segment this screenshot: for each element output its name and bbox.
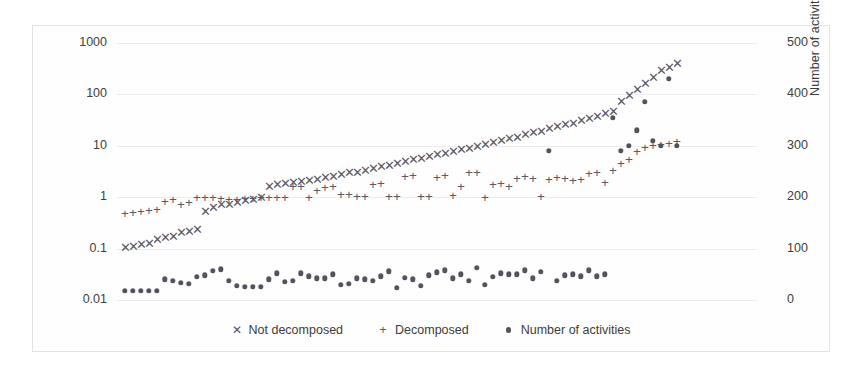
data-point-plus: +	[145, 204, 153, 218]
data-point-cross: ✕	[472, 141, 483, 154]
y-axis-tick-label: 100	[45, 86, 107, 100]
data-point-dot	[514, 272, 519, 277]
data-point-plus: +	[169, 193, 177, 207]
data-point-dot	[434, 269, 439, 274]
data-point-cross: ✕	[272, 179, 283, 192]
data-point-plus: +	[593, 167, 601, 181]
data-point-dot	[130, 288, 135, 293]
data-point-cross: ✕	[304, 174, 315, 187]
data-point-cross: ✕	[280, 178, 291, 191]
data-point-plus: +	[369, 179, 377, 193]
data-point-plus: +	[129, 206, 137, 220]
data-point-plus: +	[153, 203, 161, 217]
data-point-dot	[298, 271, 303, 276]
data-point-cross: ✕	[128, 240, 139, 253]
data-point-plus: +	[601, 176, 609, 190]
data-point-dot	[138, 288, 143, 293]
data-point-dot	[314, 276, 319, 281]
data-point-cross: ✕	[504, 133, 515, 146]
data-point-plus: +	[473, 166, 481, 180]
data-point-plus: +	[257, 192, 265, 206]
data-point-cross: ✕	[408, 154, 419, 167]
data-point-cross: ✕	[248, 194, 259, 207]
data-point-plus: +	[585, 167, 593, 181]
data-point-cross: ✕	[176, 227, 187, 240]
data-point-dot	[554, 278, 559, 283]
y-axis-tick-label: 0.01	[45, 292, 107, 306]
data-point-cross: ✕	[264, 180, 275, 193]
gridline	[117, 43, 757, 44]
gridline	[117, 197, 757, 198]
data-point-cross: ✕	[296, 175, 307, 188]
data-point-cross: ✕	[384, 159, 395, 172]
data-point-cross: ✕	[608, 105, 619, 118]
data-point-cross: ✕	[440, 148, 451, 161]
data-point-plus: +	[545, 173, 553, 187]
data-point-dot	[618, 148, 623, 153]
data-point-cross: ✕	[576, 115, 587, 128]
data-point-dot	[578, 274, 583, 279]
data-point-cross: ✕	[328, 170, 339, 183]
legend-item[interactable]: ✕Not decomposed	[231, 323, 344, 337]
legend-item[interactable]: Number of activities	[503, 323, 631, 337]
data-point-dot	[666, 76, 671, 81]
data-point-dot	[170, 278, 175, 283]
data-point-cross: ✕	[288, 177, 299, 190]
gridline	[117, 94, 757, 95]
y2-axis-tick-label: 100	[787, 241, 808, 255]
data-point-cross: ✕	[232, 196, 243, 209]
data-point-dot	[490, 274, 495, 279]
data-point-plus: +	[321, 181, 329, 195]
data-point-cross: ✕	[416, 152, 427, 165]
data-point-dot	[306, 274, 311, 279]
data-point-plus: +	[617, 157, 625, 171]
data-point-plus: +	[177, 198, 185, 212]
data-point-dot	[210, 268, 215, 273]
data-point-dot	[146, 288, 151, 293]
y-axis-tick-label: 0.1	[45, 241, 107, 255]
data-point-plus: +	[569, 174, 577, 188]
data-point-dot	[162, 277, 167, 282]
data-point-plus: +	[265, 192, 273, 206]
data-point-plus: +	[457, 180, 465, 194]
data-point-cross: ✕	[488, 136, 499, 149]
data-point-cross: ✕	[672, 58, 683, 71]
data-point-cross: ✕	[152, 233, 163, 246]
plus-marker-icon: +	[377, 324, 389, 336]
data-point-plus: +	[497, 177, 505, 191]
legend-label: Not decomposed	[249, 323, 344, 337]
data-point-plus: +	[377, 177, 385, 191]
data-point-cross: ✕	[512, 131, 523, 144]
data-point-dot	[642, 99, 647, 104]
data-point-plus: +	[657, 138, 665, 152]
plot-area: ✕✕✕✕✕✕✕✕✕✕✕✕✕✕✕✕✕✕✕✕✕✕✕✕✕✕✕✕✕✕✕✕✕✕✕✕✕✕✕✕…	[117, 43, 757, 300]
data-point-cross: ✕	[360, 164, 371, 177]
data-point-dot	[530, 276, 535, 281]
legend-item[interactable]: +Decomposed	[377, 323, 469, 337]
data-point-plus: +	[633, 145, 641, 159]
data-point-cross: ✕	[320, 171, 331, 184]
data-point-cross: ✕	[448, 146, 459, 159]
data-point-cross: ✕	[256, 192, 267, 205]
data-point-dot	[226, 278, 231, 283]
data-point-plus: +	[577, 173, 585, 187]
data-point-dot	[610, 115, 615, 120]
data-point-plus: +	[433, 171, 441, 185]
data-point-plus: +	[441, 169, 449, 183]
data-point-cross: ✕	[656, 65, 667, 78]
data-point-cross: ✕	[392, 158, 403, 171]
data-point-cross: ✕	[648, 72, 659, 85]
data-point-dot	[186, 281, 191, 286]
data-point-dot	[594, 274, 599, 279]
data-point-plus: +	[481, 192, 489, 206]
data-point-cross: ✕	[400, 156, 411, 169]
gridline	[117, 249, 757, 250]
data-point-plus: +	[449, 189, 457, 203]
data-point-dot	[586, 267, 591, 272]
data-point-plus: +	[345, 188, 353, 202]
data-point-dot	[394, 285, 399, 290]
data-point-dot	[282, 279, 287, 284]
y-axis-tick-label: 10	[45, 138, 107, 152]
data-point-cross: ✕	[616, 96, 627, 109]
data-point-plus: +	[521, 170, 529, 184]
